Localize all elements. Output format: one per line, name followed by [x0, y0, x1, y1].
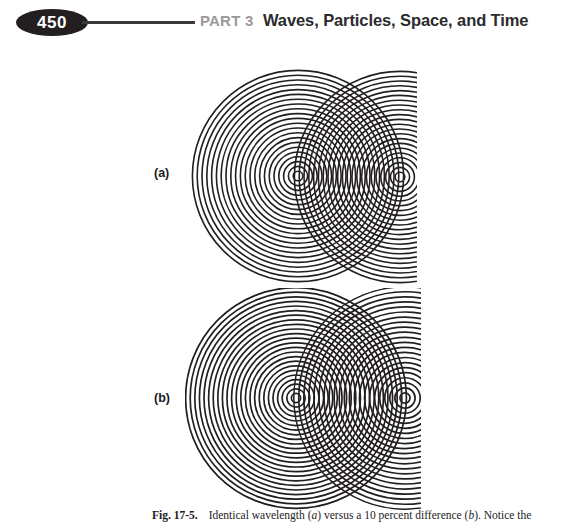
page-number: 450 [37, 14, 67, 32]
figure-caption: Fig. 17-5.Identical wavelength (a) versu… [152, 508, 552, 522]
ripple-pattern-a [185, 63, 417, 289]
wave-source-s1 [186, 288, 407, 508]
running-head: 450 PART 3 Waves, Particles, Space, and … [0, 0, 561, 48]
panel-b-label: (b) [154, 391, 170, 405]
running-head-title: Waves, Particles, Space, and Time [263, 11, 528, 30]
figure-caption-text: Identical wavelength (a) versus a 10 per… [209, 509, 532, 521]
page-number-badge: 450 [16, 9, 88, 36]
panel-a-label: (a) [154, 166, 169, 180]
figure-17-5: (a) (b) [0, 48, 561, 510]
part-label: PART 3 [200, 12, 253, 29]
figure-caption-label: Fig. 17-5. [152, 509, 198, 521]
header-rule [82, 21, 195, 24]
ripple-pattern-b [185, 288, 421, 512]
